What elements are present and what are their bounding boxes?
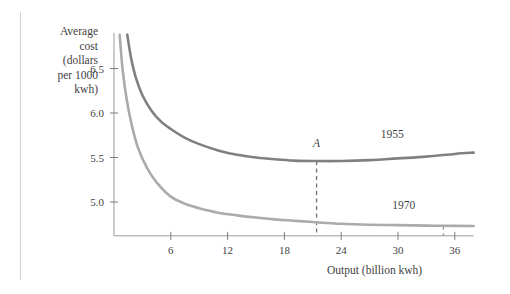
annotation-label-point-A: A (312, 137, 321, 149)
annotation-label-group: A (312, 137, 321, 149)
x-tick-label: 36 (449, 244, 461, 256)
series-label-1955: 1955 (381, 128, 404, 140)
y-tick-label: 6.5 (90, 63, 104, 75)
axes-group (114, 33, 474, 236)
x-axis-label: Output (billion kwh) (327, 264, 422, 277)
x-tick-label: 6 (168, 244, 174, 256)
series-label-group: 19551970 (381, 128, 416, 211)
y-tick-label: 5.0 (90, 196, 104, 208)
x-tick-label: 30 (392, 244, 404, 256)
y-tick-label: 6.0 (90, 107, 104, 119)
series-group (120, 35, 474, 226)
series-label-1970: 1970 (392, 199, 415, 211)
x-tick-label: 12 (222, 244, 233, 256)
chart-plot: 5.05.56.06.5 61218243036 19551970 A Outp… (0, 0, 510, 294)
y-tick-label: 5.5 (90, 152, 104, 164)
chart-page: Average cost (dollars per 1000 kwh) 5.05… (0, 0, 510, 294)
x-tick-label: 18 (279, 244, 291, 256)
x-tick-label: 24 (336, 244, 348, 256)
series-line-1955 (127, 35, 473, 161)
